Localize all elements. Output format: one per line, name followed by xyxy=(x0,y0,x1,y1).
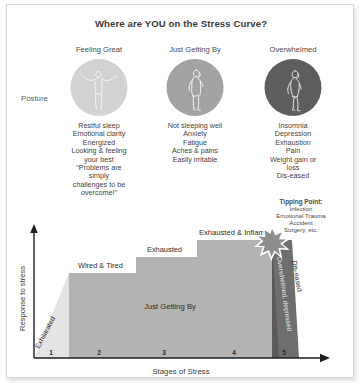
y-axis-arrowhead xyxy=(30,224,38,233)
symptom-item: Easily irritable xyxy=(143,156,247,164)
x-tick-5: 5 xyxy=(282,349,286,356)
stress-stage-column-just-getting-by: Just Getting By xyxy=(143,45,247,164)
column-heading: Overwhelmed xyxy=(241,45,345,54)
symptom-list: Not sleeping well Anxiety Fatigue Aches … xyxy=(143,122,247,164)
x-axis-arrowhead xyxy=(320,354,330,362)
label-just-getting-by: Just Getting By xyxy=(144,302,196,311)
standing-figure-arms-raised-icon xyxy=(74,62,124,114)
infographic-card: Where are YOU on the Stress Curve? Postu… xyxy=(6,4,354,378)
posture-row-label: Posture xyxy=(21,94,48,103)
standing-figure-slouched-icon xyxy=(170,62,220,114)
tipping-point-item: Emotional Trauma xyxy=(253,212,349,219)
symptom-item: Dis-eased xyxy=(241,172,345,180)
tipping-point-title: Tipping Point: xyxy=(253,198,349,205)
symptom-list: Restful sleep Emotional clarity Energize… xyxy=(47,122,151,198)
symptom-item: overcome!” xyxy=(47,189,151,197)
page-title: Where are YOU on the Stress Curve? xyxy=(7,18,354,29)
label-exhausted: Exhausted xyxy=(147,245,182,254)
posture-illustration xyxy=(143,59,247,117)
x-tick-2: 2 xyxy=(97,349,101,356)
region-just-getting-by xyxy=(69,240,272,358)
symptom-list: Insomnia Depression Exhaustion Pain Weig… xyxy=(241,122,345,181)
stress-stage-column-overwhelmed: Overwhelmed xyxy=(241,45,345,181)
column-heading: Just Getting By xyxy=(143,45,247,54)
stress-curve-chart: Response to stress Stages of Stress 1 2 … xyxy=(7,221,354,378)
tipping-point-item: Infection xyxy=(253,205,349,212)
y-axis-label: Response to stress xyxy=(18,266,27,331)
posture-illustration xyxy=(241,59,345,117)
x-axis-label: Stages of Stress xyxy=(152,367,209,376)
x-tick-4: 4 xyxy=(232,349,236,356)
standing-figure-hunched-icon xyxy=(268,62,318,114)
posture-illustration xyxy=(47,59,151,117)
label-wired-and-tired: Wired & Tired xyxy=(78,261,123,270)
stress-stage-column-feeling-great: Feeling Great xyxy=(47,45,151,198)
x-tick-1: 1 xyxy=(49,349,53,356)
x-tick-3: 3 xyxy=(162,349,166,356)
column-heading: Feeling Great xyxy=(47,45,151,54)
